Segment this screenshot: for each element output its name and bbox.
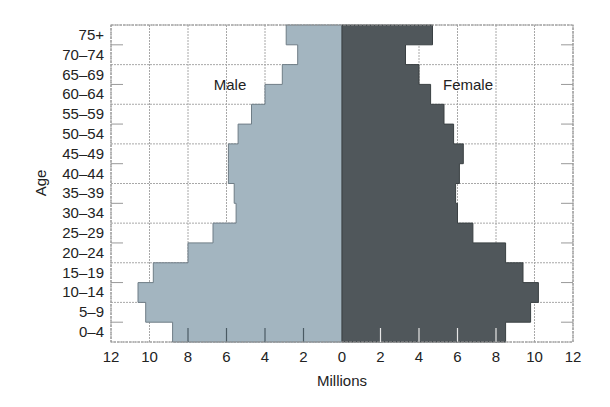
population-pyramid-chart: 0–45–910–1415–1920–2425–2930–3435–3940–4…	[0, 0, 610, 407]
x-tick-label: 4	[261, 348, 269, 365]
y-tick-label: 55–59	[62, 105, 104, 122]
y-tick-label: 65–69	[62, 66, 104, 83]
y-tick-label: 20–24	[62, 244, 104, 261]
female-series-label: Female	[443, 76, 493, 93]
x-tick-label: 10	[526, 348, 543, 365]
y-tick-label: 30–34	[62, 204, 104, 221]
x-tick-label: 2	[299, 348, 307, 365]
y-axis-title: Age	[32, 170, 49, 197]
x-tick-label: 2	[376, 348, 384, 365]
y-tick-label: 60–64	[62, 85, 104, 102]
y-tick-label: 25–29	[62, 224, 104, 241]
y-tick-label: 50–54	[62, 125, 104, 142]
y-tick-label: 70–74	[62, 46, 104, 63]
x-tick-label: 8	[492, 348, 500, 365]
x-axis-tick-labels: 12108642024681012	[103, 348, 582, 365]
y-tick-label: 75+	[79, 26, 105, 43]
y-tick-label: 35–39	[62, 184, 104, 201]
x-tick-label: 12	[103, 348, 120, 365]
y-tick-label: 40–44	[62, 165, 104, 182]
x-tick-label: 4	[415, 348, 423, 365]
y-tick-label: 5–9	[79, 303, 104, 320]
male-series-label: Male	[214, 76, 247, 93]
x-tick-label: 12	[565, 348, 582, 365]
x-tick-label: 0	[338, 348, 346, 365]
x-tick-label: 6	[222, 348, 230, 365]
y-tick-label: 15–19	[62, 264, 104, 281]
x-tick-label: 10	[141, 348, 158, 365]
x-tick-label: 6	[453, 348, 461, 365]
y-tick-label: 45–49	[62, 145, 104, 162]
x-axis-title: Millions	[317, 372, 367, 389]
y-axis-tick-labels: 0–45–910–1415–1920–2425–2930–3435–3940–4…	[62, 26, 104, 340]
x-tick-label: 8	[184, 348, 192, 365]
y-tick-label: 0–4	[79, 323, 104, 340]
y-tick-label: 10–14	[62, 283, 104, 300]
